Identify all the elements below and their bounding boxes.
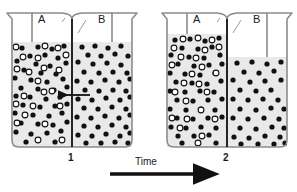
membrane-pointer-right-1: [78, 20, 86, 33]
beaker-2-left-spout: [162, 13, 187, 34]
chamber-label-a-1: A: [38, 13, 45, 25]
chamber-label-b-2: B: [253, 13, 260, 25]
chamber-label-b-1: B: [98, 13, 105, 25]
membrane-pointer-left-1: [62, 18, 65, 22]
chamber-label-a-2: A: [193, 13, 200, 25]
step-label-2: 2: [223, 152, 229, 163]
time-axis-label: Time: [135, 156, 157, 167]
beaker-1: [7, 13, 137, 147]
step-label-1: 1: [68, 152, 74, 163]
beaker-2-right-spout: [267, 13, 292, 57]
membrane-pointer-right-2: [233, 20, 241, 33]
beaker-1-right-spout: [112, 13, 137, 42]
membrane-pointer-left-2: [217, 18, 220, 22]
beaker-2: [162, 13, 292, 147]
beaker-1-left-spout: [7, 13, 32, 42]
